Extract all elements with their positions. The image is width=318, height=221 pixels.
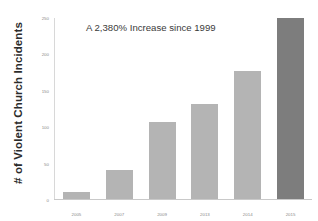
plot-area: 0 50 100 150 200 250 [54,18,312,200]
x-tick-label-2015: 2015 [286,212,296,217]
bar-slot [226,18,269,199]
x-label-slot: 2015 [269,202,312,220]
bar-2009[interactable] [149,122,176,199]
bar-slot [141,18,184,199]
y-tick-label: 200 [42,52,49,57]
bar-2007[interactable] [106,170,133,199]
x-label-slot: 2009 [141,202,184,220]
bars-layer [55,18,312,199]
x-label-slot: 2014 [226,202,269,220]
bar-slot [183,18,226,199]
bar-chart-figure: # of Violent Church Incidents A 2,380% I… [0,0,318,221]
y-axis-title: # of Violent Church Incidents [10,0,26,205]
bar-slot [98,18,141,199]
x-axis-labels: 2005 2007 2009 2013 2014 2015 [55,202,312,220]
bar-slot [269,18,312,199]
x-label-slot: 2005 [55,202,98,220]
x-axis-line [54,199,312,200]
y-tick-label: 250 [42,16,49,21]
y-tick-label: 150 [42,88,49,93]
y-tick-label: 50 [44,161,49,166]
x-label-slot: 2013 [183,202,226,220]
x-label-slot: 2007 [98,202,141,220]
x-tick-label-2013: 2013 [200,212,210,217]
y-axis-title-label: # of Violent Church Incidents [12,22,24,184]
x-tick-label-2009: 2009 [157,212,167,217]
y-tick-label: 100 [42,125,49,130]
x-tick-label-2014: 2014 [243,212,253,217]
x-tick-label-2007: 2007 [114,212,124,217]
bar-slot [55,18,98,199]
bar-2014[interactable] [234,71,261,199]
x-tick-label-2005: 2005 [72,212,82,217]
y-tick-label: 0 [47,198,49,203]
bar-2015[interactable] [277,18,304,199]
bar-2005[interactable] [63,192,90,199]
bar-2013[interactable] [191,104,218,199]
